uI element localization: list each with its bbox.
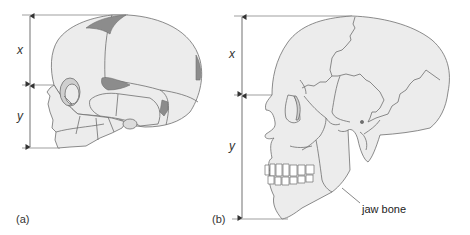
adult-dimension-x-label: x: [229, 48, 235, 60]
infant-dimension-y-label: y: [17, 110, 23, 122]
jaw-bone-annotation: jaw bone: [362, 204, 406, 215]
adult-skull-panel: [232, 16, 449, 219]
infant-dimension-x-label: x: [17, 44, 23, 56]
panel-b-label: (b): [212, 214, 225, 225]
adult-dimension-y-label: y: [229, 140, 235, 152]
panel-a-label: (a): [16, 214, 29, 225]
skull-comparison-figure: [0, 0, 470, 235]
jaw-bone-leader-line: [342, 188, 360, 203]
infant-ear-process: [123, 119, 137, 129]
infant-eye-socket: [60, 78, 80, 106]
adult-skull-drawing: [265, 16, 449, 219]
infant-skull-panel: [22, 15, 202, 148]
